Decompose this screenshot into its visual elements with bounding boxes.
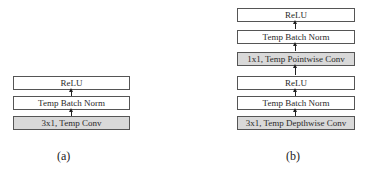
arrow-up-icon (295, 45, 296, 51)
caption-b: (b) (286, 149, 300, 164)
caption-a: (a) (57, 149, 70, 164)
arrow-up-icon (295, 23, 296, 29)
block-depthwise-conv: 3x1, Temp Depthwise Conv (237, 116, 355, 130)
arrow-up-icon (295, 67, 296, 75)
block-temp-conv: 3x1, Temp Conv (13, 116, 130, 130)
